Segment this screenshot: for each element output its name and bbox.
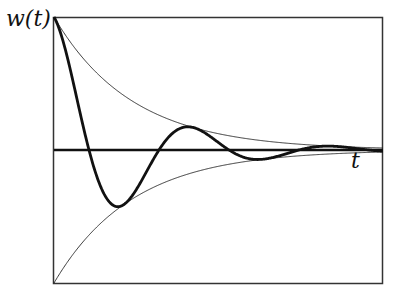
upper-envelope bbox=[54, 17, 383, 148]
y-axis-label: w(t) bbox=[6, 6, 51, 31]
lower-envelope bbox=[54, 152, 383, 283]
plot-area bbox=[0, 0, 396, 296]
x-axis-label: t bbox=[351, 148, 360, 173]
damped-oscillation-curve bbox=[54, 17, 383, 207]
